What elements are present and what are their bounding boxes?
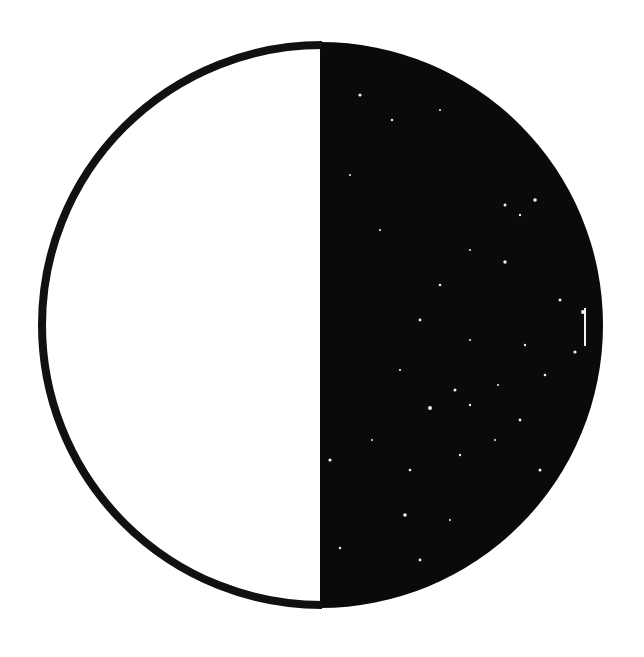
- dark-half: [320, 42, 603, 608]
- moon-circle: [40, 42, 603, 608]
- lit-half: [40, 45, 320, 605]
- half-moon-diagram: [0, 0, 644, 657]
